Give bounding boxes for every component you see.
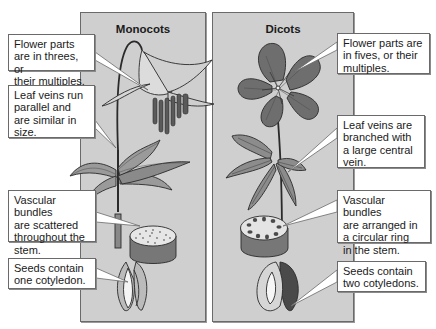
monocot-seed-icon bbox=[117, 262, 146, 311]
monocot-seed-callout: Seeds contain one cotyledon. bbox=[8, 258, 96, 289]
dicot-stem-cross-section-icon bbox=[241, 216, 289, 257]
dicot-leaf-callout: Leaf veins are branched with a large cen… bbox=[337, 115, 425, 168]
lily-flower-icon bbox=[102, 41, 214, 150]
monocot-vascular-callout: Vascular bundles are scattered throughou… bbox=[8, 190, 96, 242]
dicot-leaf-icon bbox=[226, 135, 306, 210]
dicot-seed-icon bbox=[257, 262, 298, 311]
monocot-flower-callout: Flower parts are in threes, or their mul… bbox=[8, 34, 95, 71]
monocot-leaf-callout: Leaf veins run parallel and are similar … bbox=[8, 85, 95, 138]
dicot-seed-callout: Seeds contain two cotyledons. bbox=[337, 261, 426, 292]
dicot-flower-callout: Flower parts are in fives, or their mult… bbox=[337, 33, 430, 74]
dicot-vascular-callout: Vascular bundles are arranged in a circu… bbox=[337, 190, 431, 243]
